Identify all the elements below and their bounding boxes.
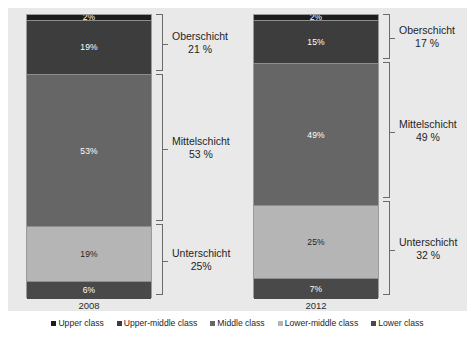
legend-item[interactable]: Upper-middle class — [117, 318, 198, 328]
legend-swatch-icon — [117, 321, 122, 326]
x-tick-label-2012: 2012 — [253, 300, 379, 311]
stacked-bar-chart: 2%19%53%19%6% 2008 Oberschicht 21 % Mitt… — [0, 0, 475, 340]
bracket — [156, 224, 163, 295]
bar-segment[interactable]: 7% — [254, 279, 378, 299]
legend-item[interactable]: Middle class — [210, 318, 264, 328]
legend-swatch-icon — [51, 321, 56, 326]
bracket-column-2012 — [381, 14, 391, 298]
bracket-tick — [163, 44, 168, 45]
x-tick-label-2008: 2008 — [26, 300, 152, 311]
annotation-value: 25% — [172, 260, 230, 273]
annotation-value: 21 % — [172, 43, 228, 56]
bracket-tick — [163, 261, 168, 262]
annotation-name: Oberschicht — [172, 30, 228, 43]
bracket — [383, 62, 390, 198]
annotation-mittelschicht-2008: Mittelschicht 53 % — [172, 135, 230, 161]
bar-segment[interactable]: 6% — [27, 282, 151, 299]
bar-segment[interactable]: 19% — [27, 227, 151, 282]
bar-group-2008: 2%19%53%19%6% — [26, 14, 152, 298]
legend-label: Middle class — [217, 318, 264, 328]
annotation-value: 49 % — [399, 131, 457, 144]
bracket — [156, 14, 163, 71]
annotation-oberschicht-2012: Oberschicht 17 % — [399, 24, 455, 50]
legend-item[interactable]: Lower class — [371, 318, 423, 328]
bar-segment[interactable]: 19% — [27, 21, 151, 76]
segment-value-label: 15% — [307, 38, 324, 47]
segment-value-label: 6% — [83, 286, 96, 295]
annotation-name: Unterschicht — [399, 236, 457, 249]
annotation-oberschicht-2008: Oberschicht 21 % — [172, 30, 228, 56]
bar-segment[interactable]: 25% — [254, 206, 378, 278]
segment-value-label: 49% — [307, 131, 324, 140]
annotation-value: 32 % — [399, 249, 457, 262]
segment-value-label: 53% — [80, 147, 97, 156]
annotation-name: Mittelschicht — [172, 135, 230, 148]
legend-label: Upper class — [58, 318, 103, 328]
segment-value-label: 19% — [80, 43, 97, 52]
annotation-mittelschicht-2012: Mittelschicht 49 % — [399, 118, 457, 144]
legend-item[interactable]: Upper class — [51, 318, 103, 328]
bracket-tick — [390, 250, 395, 251]
bar-segment[interactable]: 49% — [254, 64, 378, 206]
bracket-tick — [163, 149, 168, 150]
chart-legend: Upper classUpper-middle classMiddle clas… — [0, 318, 475, 328]
bracket-column-2008 — [154, 14, 164, 298]
annotation-value: 17 % — [399, 37, 455, 50]
annotation-value: 53 % — [172, 148, 230, 161]
legend-label: Lower-middle class — [285, 318, 359, 328]
legend-swatch-icon — [371, 321, 376, 326]
bracket — [383, 201, 390, 295]
bracket — [383, 14, 390, 59]
legend-item[interactable]: Lower-middle class — [278, 318, 359, 328]
stacked-bar-2008[interactable]: 2%19%53%19%6% — [26, 14, 152, 298]
segment-value-label: 7% — [310, 285, 323, 294]
segment-value-label: 25% — [307, 238, 324, 247]
legend-swatch-icon — [210, 321, 215, 326]
annotation-name: Unterschicht — [172, 247, 230, 260]
annotation-name: Oberschicht — [399, 24, 455, 37]
segment-value-label: 19% — [80, 250, 97, 259]
bracket-tick — [390, 132, 395, 133]
bar-segment[interactable]: 15% — [254, 21, 378, 64]
bar-group-2012: 2%15%49%25%7% — [253, 14, 379, 298]
annotation-unterschicht-2008: Unterschicht 25% — [172, 247, 230, 273]
legend-label: Upper-middle class — [124, 318, 198, 328]
legend-swatch-icon — [278, 321, 283, 326]
stacked-bar-2012[interactable]: 2%15%49%25%7% — [253, 14, 379, 298]
annotation-unterschicht-2012: Unterschicht 32 % — [399, 236, 457, 262]
annotation-name: Mittelschicht — [399, 118, 457, 131]
bracket — [156, 74, 163, 222]
legend-label: Lower class — [378, 318, 423, 328]
bracket-tick — [390, 38, 395, 39]
bar-segment[interactable]: 53% — [27, 75, 151, 227]
